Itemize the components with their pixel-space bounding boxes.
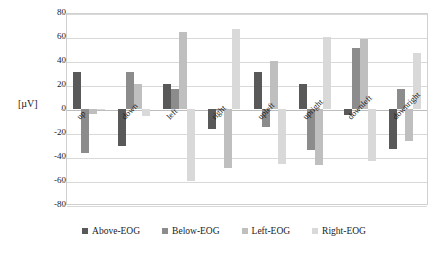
bar (163, 84, 171, 109)
legend-item: Above-EOG (82, 226, 140, 236)
legend-swatch (82, 228, 88, 234)
bar-group (66, 13, 111, 205)
chart-legend: Above-EOGBelow-EOGLeft-EOGRight-EOG (0, 226, 448, 236)
bar (278, 109, 286, 164)
legend-item: Left-EOG (242, 226, 291, 236)
legend-item: Below-EOG (162, 226, 220, 236)
legend-swatch (162, 228, 168, 234)
bar (224, 109, 232, 168)
bar (405, 109, 413, 141)
bar (299, 84, 307, 109)
legend-label: Right-EOG (322, 226, 366, 236)
legend-label: Left-EOG (252, 226, 291, 236)
legend-swatch (312, 228, 318, 234)
gridline (67, 206, 427, 207)
bar (97, 109, 105, 110)
bar (89, 109, 97, 114)
bar (368, 109, 376, 161)
bar (187, 109, 195, 181)
bar (254, 72, 262, 109)
bar (142, 109, 150, 116)
bar (179, 32, 187, 109)
legend-swatch (242, 228, 248, 234)
bar (232, 29, 240, 109)
bar-group (157, 13, 202, 205)
legend-label: Below-EOG (172, 226, 220, 236)
bar (315, 109, 323, 165)
legend-item: Right-EOG (312, 226, 366, 236)
legend-label: Above-EOG (92, 226, 140, 236)
bar (73, 72, 81, 109)
bar-chart: [µV] 806040200-20-40-60-80 updownleftrig… (0, 0, 448, 256)
y-axis-unit-label: [µV] (18, 99, 38, 109)
bar (323, 37, 331, 109)
y-tick-mark (61, 205, 66, 206)
bars-layer (66, 13, 428, 205)
